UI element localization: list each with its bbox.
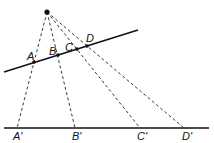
label-b-prime: B' bbox=[72, 130, 82, 142]
label-d: D bbox=[86, 32, 94, 44]
ray-d bbox=[47, 12, 184, 128]
projection-rays bbox=[17, 12, 184, 128]
label-a: A bbox=[26, 50, 34, 62]
label-c: C bbox=[65, 41, 73, 53]
point-c bbox=[75, 47, 79, 51]
label-b: B bbox=[49, 45, 56, 57]
label-a-prime: A' bbox=[12, 130, 23, 142]
label-d-prime: D' bbox=[182, 130, 193, 142]
point-d bbox=[85, 44, 89, 48]
projection-center-point bbox=[44, 9, 49, 14]
ray-c bbox=[47, 12, 140, 128]
label-c-prime: C' bbox=[137, 130, 148, 142]
projection-diagram: AA'BB'CC'DD' bbox=[0, 0, 214, 143]
ray-a bbox=[17, 12, 47, 128]
point-b bbox=[56, 53, 60, 57]
points: AA'BB'CC'DD' bbox=[12, 32, 193, 142]
